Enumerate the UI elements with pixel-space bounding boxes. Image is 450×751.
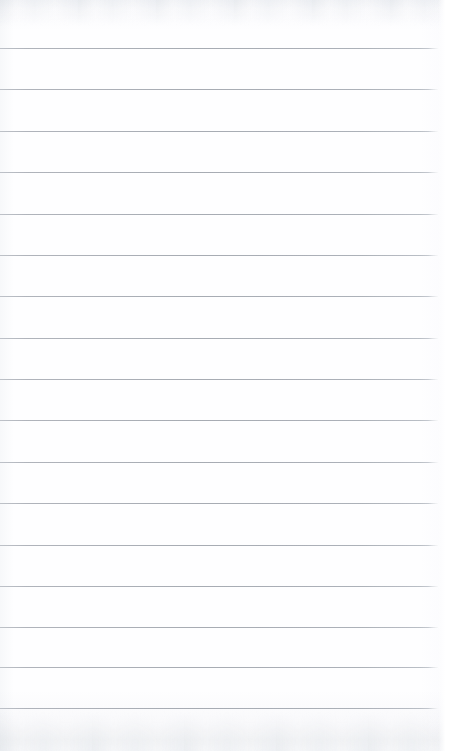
rule-line-14 [0, 586, 438, 587]
rule-line-7 [0, 296, 438, 297]
scan-artifact-bottom-band [0, 711, 450, 751]
rule-line-8 [0, 338, 438, 339]
rule-line-16 [0, 667, 438, 668]
rule-line-4 [0, 172, 438, 173]
scan-artifact-top-band [0, 0, 450, 26]
rule-line-17 [0, 708, 438, 709]
scanned-ruled-page [0, 0, 450, 751]
rule-line-11 [0, 462, 438, 463]
rule-line-2 [0, 89, 438, 90]
page-right-edge-margin [438, 0, 450, 751]
rule-line-15 [0, 627, 438, 628]
rule-line-12 [0, 503, 438, 504]
rule-line-6 [0, 255, 438, 256]
rule-line-1 [0, 48, 438, 49]
rule-line-3 [0, 131, 438, 132]
rule-line-5 [0, 214, 438, 215]
rule-line-13 [0, 545, 438, 546]
rule-line-10 [0, 420, 438, 421]
rule-line-9 [0, 379, 438, 380]
